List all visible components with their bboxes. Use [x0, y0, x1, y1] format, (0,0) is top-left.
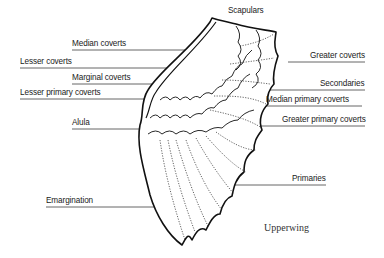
- wing-illustration: [0, 0, 384, 258]
- label-greater-primary-coverts: Greater primary coverts: [282, 116, 366, 124]
- label-primaries: Primaries: [292, 175, 326, 183]
- label-scapulars: Scapulars: [228, 7, 264, 15]
- caption-upperwing: Upperwing: [264, 222, 309, 233]
- label-median-coverts: Median coverts: [72, 40, 126, 48]
- label-lesser-primary-coverts: Lesser primary coverts: [20, 89, 101, 97]
- label-median-primary-coverts: Median primary coverts: [266, 96, 349, 104]
- label-marginal-coverts: Marginal coverts: [72, 74, 130, 82]
- label-secondaries: Secondaries: [320, 80, 364, 88]
- label-greater-coverts: Greater coverts: [310, 52, 365, 60]
- wing-outline: [139, 18, 278, 245]
- wing-diagram: Scapulars Median coverts Lesser coverts …: [0, 0, 384, 258]
- label-alula: Alula: [72, 119, 90, 127]
- label-emargination: Emargination: [46, 197, 93, 205]
- label-lesser-coverts: Lesser coverts: [20, 58, 72, 66]
